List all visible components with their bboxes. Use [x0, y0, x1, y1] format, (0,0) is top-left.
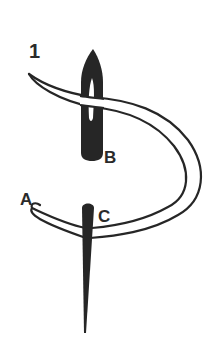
lower-needle	[82, 204, 94, 334]
point-a-label: A	[20, 190, 32, 209]
upper-needle	[80, 49, 104, 161]
step-number-label: 1	[29, 40, 40, 62]
point-b-label: B	[104, 148, 116, 167]
stitch-diagram: 1 B A C	[0, 0, 218, 345]
point-c-label: C	[98, 207, 110, 226]
